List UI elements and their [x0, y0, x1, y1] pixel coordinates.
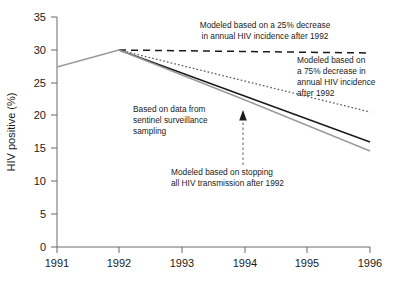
- x-axis: 1991 1992 1993 1994 1995 1996: [45, 247, 382, 269]
- annotation-sentinel-surveillance: Based on data from sentinel surveillance…: [133, 104, 208, 136]
- annotation-75-percent-decrease: Modeled based on a 75% decrease in annua…: [297, 55, 376, 98]
- x-tick-label-1994: 1994: [233, 257, 257, 269]
- x-tick-label-1991: 1991: [45, 257, 69, 269]
- anno-sentinel-line-2: sentinel surveillance: [133, 115, 208, 125]
- x-tick-label-1993: 1993: [170, 257, 194, 269]
- x-tick-label-1996: 1996: [358, 257, 382, 269]
- annotation-25-percent-decrease: Modeled based on a 25% decrease in annua…: [200, 20, 331, 41]
- y-tick-label-30: 30: [34, 44, 46, 56]
- anno-stop-line-2: all HIV transmission after 1992: [171, 178, 284, 188]
- anno-75-line-1: Modeled based on: [297, 55, 366, 65]
- y-axis: 0 5 10 15 20 25 30 35: [34, 11, 57, 253]
- y-axis-title: HIV positive (%): [5, 93, 17, 172]
- anno-25-line-2: in annual HIV incidence after 1992: [202, 31, 329, 41]
- y-tick-label-10: 10: [34, 175, 46, 187]
- chart-svg: 0 5 10 15 20 25 30 35 1991 1992 1993 199…: [0, 0, 395, 287]
- series-25-percent-decrease: [119, 50, 370, 53]
- y-tick-label-25: 25: [34, 77, 46, 89]
- y-tick-label-15: 15: [34, 142, 46, 154]
- stop-transmission-arrow-icon: [239, 110, 247, 121]
- y-tick-label-35: 35: [34, 11, 46, 23]
- y-tick-label-5: 5: [40, 208, 46, 220]
- anno-sentinel-line-3: sampling: [133, 126, 167, 136]
- x-tick-label-1992: 1992: [107, 257, 131, 269]
- anno-75-line-4: after 1992: [297, 88, 335, 98]
- anno-75-line-2: a 75% decrease in: [297, 66, 366, 76]
- y-tick-label-0: 0: [40, 241, 46, 253]
- anno-stop-line-1: Modeled based on stopping: [171, 167, 273, 177]
- y-tick-label-20: 20: [34, 109, 46, 121]
- x-tick-label-1995: 1995: [295, 257, 319, 269]
- anno-75-line-3: annual HIV incidence: [297, 77, 376, 87]
- anno-sentinel-line-1: Based on data from: [133, 104, 206, 114]
- anno-25-line-1: Modeled based on a 25% decrease: [200, 20, 331, 30]
- hiv-prevalence-chart: 0 5 10 15 20 25 30 35 1991 1992 1993 199…: [0, 0, 395, 287]
